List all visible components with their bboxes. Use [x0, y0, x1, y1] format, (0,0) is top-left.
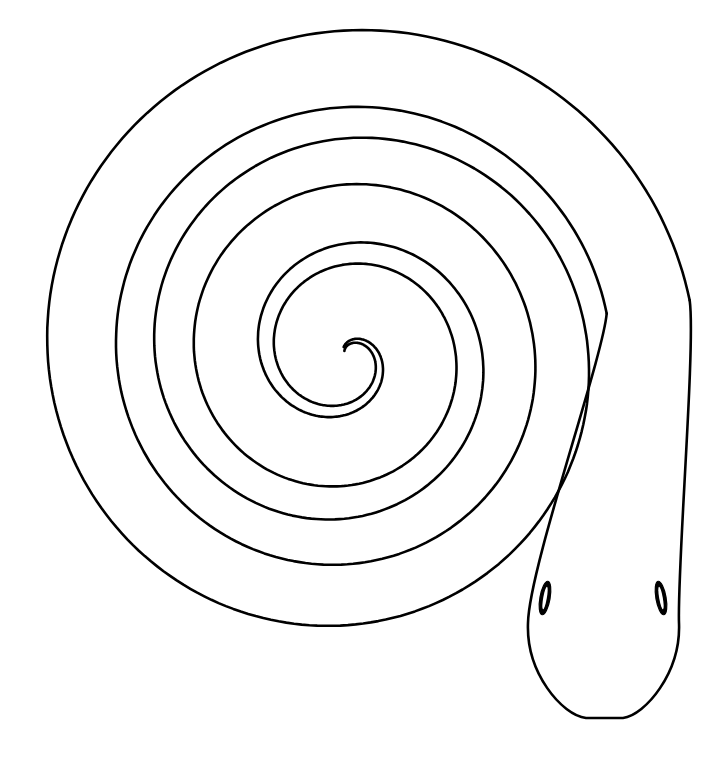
drawing-canvas: Coiled Snake Line Drawing Line drawing o… [0, 0, 714, 762]
snake-illustration: Coiled Snake Line Drawing Line drawing o… [0, 0, 714, 762]
background-rect [0, 0, 714, 762]
